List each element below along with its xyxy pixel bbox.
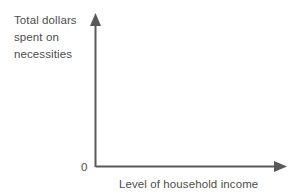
x-axis-label: Level of household income [119,177,258,191]
origin-label: 0 [81,160,87,174]
plot-area [96,16,286,166]
y-axis-label: Total dollars spent on necessities [14,12,90,63]
chart-figure: Total dollars spent on necessities Level… [0,0,300,196]
